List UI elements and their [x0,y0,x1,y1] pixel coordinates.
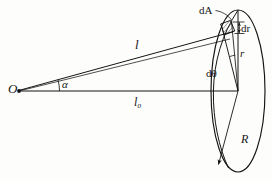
label-angle-element: dθ [206,68,217,79]
label-disc-radius: R [241,133,248,145]
label-radius-element: r [240,48,244,59]
diagram-canvas [0,0,272,181]
wedge-ray-left [222,26,239,92]
origin-point-marker [17,89,21,93]
label-angle-alpha: α [62,79,68,90]
solid-angle-diagram: O α l l₀ dA dr r dθ R [0,0,272,181]
slant-line-l [19,32,234,91]
label-axial-distance: l₀ [134,96,142,108]
disc-radius-arrow-R [219,91,239,165]
label-radial-thickness: dr [241,23,250,34]
label-slant-distance: l [135,38,139,51]
label-origin: O [8,82,17,95]
slant-line-l-lower [19,39,230,91]
dA-leader-line [216,11,232,21]
alpha-angle-arc [58,80,60,91]
label-area-element: dA [199,5,212,16]
